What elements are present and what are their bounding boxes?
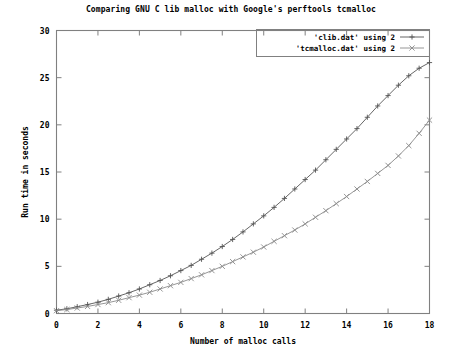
data-point-marker [64, 306, 69, 311]
chart-legend: 'clib.dat' using 2 'tcmalloc.dat' using … [257, 30, 430, 57]
data-point-marker [137, 286, 142, 291]
series-group [54, 60, 432, 313]
x-tick-label: 0 [54, 321, 59, 330]
data-point-marker [313, 215, 318, 220]
y-tick-label: 0 [45, 310, 50, 319]
plot-frame [57, 31, 430, 314]
data-point-marker [282, 233, 287, 238]
data-point-marker [199, 257, 204, 262]
data-point-marker [147, 282, 152, 287]
x-tick-label: 10 [259, 321, 269, 330]
x-tick-label: 2 [96, 321, 101, 330]
data-point-marker [334, 201, 339, 206]
y-tick-label: 20 [40, 121, 50, 130]
data-point-marker [158, 286, 163, 291]
data-point-marker [261, 244, 266, 249]
legend-item-tcmalloc: 'tcmalloc.dat' using 2 [296, 44, 395, 53]
x-axis-label: Number of malloc calls [190, 337, 296, 346]
x-tick-label: 4 [137, 321, 142, 330]
data-point-marker [409, 34, 414, 39]
data-point-marker [199, 272, 204, 277]
data-point-marker [178, 280, 183, 285]
y-axis-label: Run time in seconds [20, 126, 30, 218]
data-point-marker [209, 268, 214, 273]
data-point-marker [168, 283, 173, 288]
data-point-marker [220, 264, 225, 269]
data-point-marker [354, 186, 359, 191]
data-point-marker [385, 163, 390, 168]
legend-line-samples [400, 34, 424, 50]
data-point-marker [168, 273, 173, 278]
data-point-marker [271, 239, 276, 244]
legend-item-clib: 'clib.dat' using 2 [314, 33, 395, 42]
data-point-marker [344, 194, 349, 199]
data-point-marker [427, 60, 432, 65]
data-point-marker [365, 179, 370, 184]
x-tick-label: 12 [300, 321, 310, 330]
data-point-marker [209, 251, 214, 256]
data-point-marker [417, 131, 422, 136]
x-tick-label: 14 [342, 321, 352, 330]
data-point-marker [158, 278, 163, 283]
y-axis-ticks: 051015202530 [40, 27, 430, 319]
data-point-marker [251, 250, 256, 255]
series-line-clib [57, 63, 430, 311]
data-point-marker [230, 259, 235, 264]
data-point-marker [375, 171, 380, 176]
x-tick-label: 8 [220, 321, 225, 330]
data-point-marker [240, 254, 245, 259]
x-tick-label: 16 [383, 321, 393, 330]
data-point-marker [189, 276, 194, 281]
chart-container: Comparing GNU C lib malloc with Google's… [0, 0, 462, 351]
series-line-tcmalloc [57, 120, 430, 311]
data-point-marker [406, 143, 411, 148]
y-tick-label: 10 [40, 215, 50, 224]
data-point-marker [178, 268, 183, 273]
y-tick-label: 30 [40, 27, 50, 36]
y-tick-label: 25 [40, 74, 50, 83]
data-point-marker [303, 221, 308, 226]
data-point-marker [323, 208, 328, 213]
data-point-marker [189, 263, 194, 268]
data-point-marker [220, 244, 225, 249]
data-point-marker [147, 290, 152, 295]
x-tick-label: 18 [425, 321, 435, 330]
x-axis-ticks: 024681012141618 [54, 31, 434, 330]
data-point-marker [126, 290, 131, 295]
y-tick-label: 15 [40, 168, 50, 177]
data-point-marker [396, 153, 401, 158]
plot-area: 051015202530 024681012141618 Number of m… [0, 0, 462, 351]
x-tick-label: 6 [178, 321, 183, 330]
data-point-marker [292, 227, 297, 232]
y-tick-label: 5 [45, 262, 50, 271]
